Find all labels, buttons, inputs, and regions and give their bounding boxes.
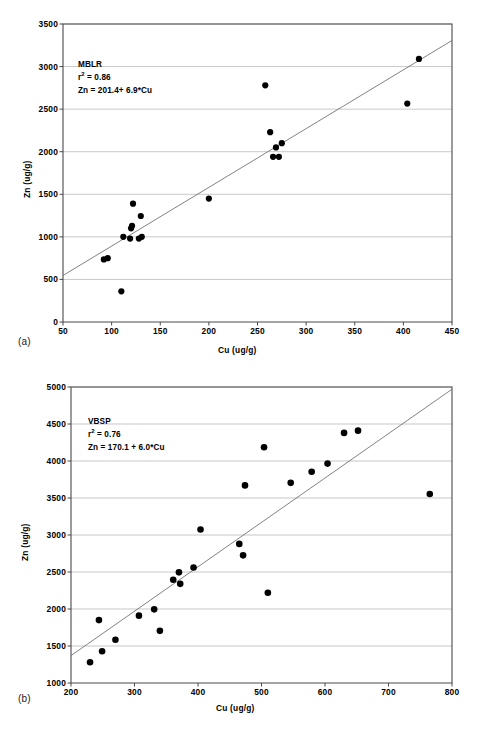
x-axis-title-a: Cu (ug/g) (218, 345, 257, 355)
x-tick-label-350: 350 (347, 326, 362, 336)
panel-label-a: (a) (18, 336, 31, 347)
x-tick-label-450: 450 (445, 326, 460, 336)
y-axis-title-b: Zn (ug/g) (20, 523, 30, 561)
y-tick-label-2500: 2500 (39, 104, 59, 114)
data-point (176, 569, 183, 576)
data-point (177, 581, 184, 588)
data-point (355, 427, 362, 434)
data-point (265, 589, 272, 596)
annotation-block-a: MBLR r2 = 0.86 Zn = 201.4+ 6.9*Cu (78, 58, 152, 98)
chart-panel-a: 5010015020025030035040045005001000150020… (0, 0, 479, 365)
data-point (404, 101, 410, 107)
x-tick-label-150: 150 (153, 326, 168, 336)
annotation-r2-a: r2 = 0.86 (78, 71, 152, 84)
data-point (157, 628, 164, 635)
y-tick-label-3000: 3000 (47, 530, 67, 540)
annotation-equation-a: Zn = 201.4+ 6.9*Cu (78, 84, 152, 97)
data-point (120, 234, 126, 240)
y-tick-label-4000: 4000 (47, 456, 67, 466)
x-tick-label-400: 400 (191, 687, 206, 697)
data-point (270, 154, 276, 160)
data-point (118, 288, 124, 294)
data-point (273, 144, 279, 150)
data-point (308, 468, 315, 475)
scatter-plot-b: 2003004005006007008001000150020002500300… (0, 365, 479, 730)
y-tick-label-4500: 4500 (47, 419, 67, 429)
data-point (197, 526, 204, 533)
data-point (206, 195, 212, 201)
x-tick-label-400: 400 (396, 326, 411, 336)
panel-label-b: (b) (18, 693, 31, 704)
y-tick-label-1500: 1500 (47, 641, 67, 651)
y-tick-label-2500: 2500 (47, 567, 67, 577)
scatter-plot-a: 5010015020025030035040045005001000150020… (0, 0, 479, 365)
x-axis-title-b: Cu (ug/g) (216, 703, 255, 713)
r2-exponent-b: 2 (91, 428, 94, 434)
data-point (112, 636, 119, 643)
data-point (151, 606, 158, 613)
x-tick-label-200: 200 (202, 326, 217, 336)
data-point (136, 612, 143, 619)
annotation-group-a: MBLR (78, 58, 152, 71)
data-point (426, 491, 433, 498)
data-point (96, 617, 103, 624)
x-tick-label-700: 700 (381, 687, 396, 697)
data-point (261, 444, 268, 451)
data-point (138, 213, 144, 219)
data-point (130, 201, 136, 207)
data-point (276, 154, 282, 160)
data-point (279, 140, 285, 146)
data-point (287, 480, 294, 487)
data-point (267, 129, 273, 135)
x-tick-label-300: 300 (127, 687, 142, 697)
data-point (87, 659, 94, 666)
x-tick-label-500: 500 (254, 687, 269, 697)
y-axis-title-a: Zn (ug/g) (22, 160, 32, 198)
y-tick-label-500: 500 (43, 274, 58, 284)
y-tick-label-3000: 3000 (39, 62, 59, 72)
data-point (262, 82, 268, 88)
y-tick-label-3500: 3500 (47, 493, 67, 503)
data-point (242, 482, 249, 489)
x-tick-label-600: 600 (318, 687, 333, 697)
y-tick-label-1000: 1000 (47, 678, 67, 688)
data-point (190, 564, 197, 571)
data-point (105, 255, 111, 261)
data-point (416, 56, 422, 62)
x-tick-label-300: 300 (299, 326, 314, 336)
data-point (139, 234, 145, 240)
y-tick-label-0: 0 (53, 317, 58, 327)
r2-exponent-a: 2 (81, 71, 84, 77)
y-tick-label-2000: 2000 (47, 604, 67, 614)
annotation-block-b: VBSP r2 = 0.76 Zn = 170.1 + 6.0*Cu (88, 415, 165, 455)
y-tick-label-1000: 1000 (39, 232, 59, 242)
data-point (127, 235, 133, 241)
r2-value-b: = 0.76 (97, 430, 121, 439)
annotation-r2-b: r2 = 0.76 (88, 428, 165, 441)
y-tick-label-2000: 2000 (39, 147, 59, 157)
x-tick-label-200: 200 (64, 687, 79, 697)
annotation-equation-b: Zn = 170.1 + 6.0*Cu (88, 441, 165, 454)
data-point (341, 430, 348, 437)
x-tick-label-50: 50 (58, 326, 68, 336)
x-tick-label-100: 100 (104, 326, 119, 336)
y-tick-label-1500: 1500 (39, 189, 59, 199)
data-point (170, 576, 177, 583)
y-tick-label-5000: 5000 (47, 382, 67, 392)
data-point (236, 541, 243, 548)
y-tick-label-3500: 3500 (39, 19, 59, 29)
data-point (240, 552, 247, 559)
x-tick-label-800: 800 (445, 687, 460, 697)
r2-value-a: = 0.86 (87, 73, 111, 82)
chart-panel-b: 2003004005006007008001000150020002500300… (0, 365, 479, 730)
annotation-group-b: VBSP (88, 415, 165, 428)
x-tick-label-250: 250 (250, 326, 265, 336)
data-point (129, 223, 135, 229)
data-point (99, 648, 106, 655)
data-point (324, 460, 331, 467)
